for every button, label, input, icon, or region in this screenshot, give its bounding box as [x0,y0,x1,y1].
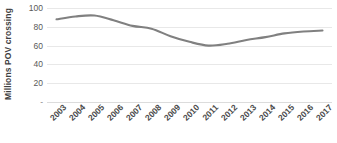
x-axis-tick-label: 2003 [48,103,67,122]
x-axis-tick-label: 2007 [124,103,143,122]
x-axis-tick-labels: 2003200420052006200720082009201020112012… [47,103,332,143]
x-axis-tick-label: 2005 [86,103,105,122]
x-axis-tick: 2012 [219,103,238,122]
x-axis-tick: 2003 [48,103,67,122]
x-axis-tick-label: 2017 [314,103,333,122]
x-axis-tick: 2007 [124,103,143,122]
x-axis-tick-label: 2011 [200,103,219,122]
x-axis-tick-label: 2013 [238,103,257,122]
series-line-millions-pov-crossing [47,8,332,102]
x-axis-tick-label: 2006 [105,103,124,122]
x-axis-tick: 2006 [105,103,124,122]
y-axis-tick-label: 100 [29,4,43,13]
x-axis-tick-label: 2004 [67,103,86,122]
x-axis-tick: 2013 [238,103,257,122]
y-axis-tick-label: 80 [34,23,43,32]
y-axis-tick-labels: 10080604020- [16,8,46,102]
x-axis-tick-label: 2008 [143,103,162,122]
y-axis-title-text: Millions POV crossing [3,8,13,100]
line-chart: Millions POV crossing 10080604020- 20032… [0,0,337,143]
series-path [57,15,323,45]
y-axis-tick-label: 20 [34,79,43,88]
x-axis-tick-label: 2009 [162,103,181,122]
x-axis-tick: 2014 [257,103,276,122]
x-axis-tick-label: 2012 [219,103,238,122]
x-axis-tick: 2009 [162,103,181,122]
y-axis-tick-label: 60 [34,41,43,50]
x-axis-tick: 2010 [181,103,200,122]
x-axis-tick: 2004 [67,103,86,122]
x-axis-tick: 2008 [143,103,162,122]
y-axis-title: Millions POV crossing [0,0,16,108]
plot-area [47,8,332,102]
y-axis-tick-label: - [40,98,43,107]
x-axis-tick: 2011 [200,103,219,122]
x-axis-tick-label: 2014 [257,103,276,122]
y-axis-tick-label: 40 [34,60,43,69]
x-axis-tick: 2016 [295,103,314,122]
x-axis-tick: 2005 [86,103,105,122]
x-axis-tick-label: 2016 [295,103,314,122]
x-axis-tick: 2015 [276,103,295,122]
x-axis-tick-label: 2015 [276,103,295,122]
x-axis-tick-label: 2010 [181,103,200,122]
x-axis-tick: 2017 [314,103,333,122]
